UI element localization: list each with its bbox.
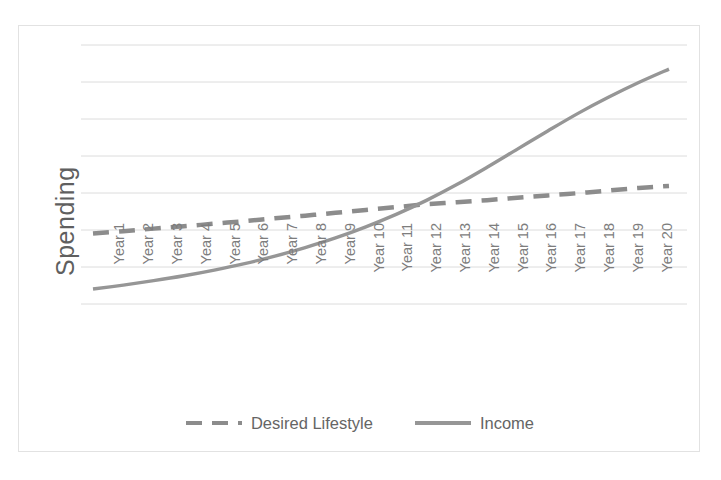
x-tick-label: Year 2 <box>140 223 156 311</box>
x-tick: Year 11 <box>381 309 410 404</box>
legend-item-income[interactable]: Income <box>415 414 534 433</box>
x-tick: Year 5 <box>208 309 237 404</box>
x-tick: Year 19 <box>611 309 640 404</box>
x-tick: Year 17 <box>554 309 583 404</box>
x-tick-label: Year 15 <box>515 223 531 311</box>
x-axis-tick-labels: Year 1Year 2Year 3Year 4Year 5Year 6Year… <box>93 309 669 404</box>
x-tick-label: Year 13 <box>457 223 473 311</box>
x-tick-label: Year 16 <box>543 223 559 311</box>
x-tick: Year 7 <box>266 309 295 404</box>
x-tick-label: Year 19 <box>630 223 646 311</box>
x-tick-label: Year 20 <box>659 223 675 311</box>
x-tick: Year 8 <box>295 309 324 404</box>
x-tick: Year 4 <box>179 309 208 404</box>
x-tick-label: Year 4 <box>198 223 214 311</box>
dashed-line-swatch-icon <box>186 421 242 425</box>
x-tick-label: Year 3 <box>169 223 185 311</box>
x-tick-label: Year 12 <box>428 223 444 311</box>
x-tick: Year 13 <box>439 309 468 404</box>
x-tick: Year 12 <box>410 309 439 404</box>
x-tick-label: Year 18 <box>601 223 617 311</box>
chart-legend: Desired Lifestyle Income <box>19 408 701 438</box>
x-tick-label: Year 10 <box>371 223 387 311</box>
legend-label: Desired Lifestyle <box>251 414 373 433</box>
x-tick-label: Year 5 <box>227 223 243 311</box>
x-tick: Year 6 <box>237 309 266 404</box>
x-tick: Year 10 <box>352 309 381 404</box>
x-tick-label: Year 9 <box>342 223 358 311</box>
chart-frame: Spending Year 1Year 2Year 3Year 4Year 5Y… <box>18 25 700 452</box>
x-tick: Year 15 <box>496 309 525 404</box>
legend-item-desired-lifestyle[interactable]: Desired Lifestyle <box>186 414 373 433</box>
x-tick: Year 14 <box>467 309 496 404</box>
x-tick: Year 9 <box>323 309 352 404</box>
x-tick: Year 18 <box>583 309 612 404</box>
x-tick-label: Year 8 <box>313 223 329 311</box>
x-tick: Year 16 <box>525 309 554 404</box>
x-tick: Year 3 <box>151 309 180 404</box>
legend-label: Income <box>480 414 534 433</box>
plot-area: Spending Year 1Year 2Year 3Year 4Year 5Y… <box>19 26 701 453</box>
x-tick-label: Year 1 <box>111 223 127 311</box>
x-tick: Year 2 <box>122 309 151 404</box>
x-tick: Year 1 <box>93 309 122 404</box>
x-tick-label: Year 11 <box>399 223 415 311</box>
x-tick-label: Year 6 <box>255 223 271 311</box>
x-tick: Year 20 <box>640 309 669 404</box>
solid-line-swatch-icon <box>415 421 471 425</box>
x-tick-label: Year 17 <box>572 223 588 311</box>
x-tick-label: Year 14 <box>486 223 502 311</box>
x-tick-label: Year 7 <box>284 223 300 311</box>
